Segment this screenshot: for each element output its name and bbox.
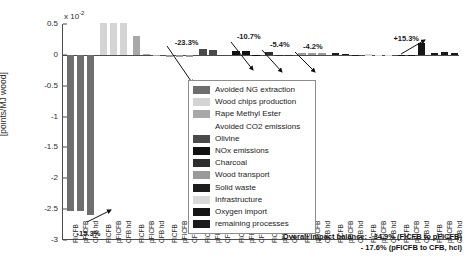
legend-swatch: [193, 123, 210, 131]
legend-swatch: [193, 196, 210, 204]
bar: [100, 23, 107, 55]
y-axis-tick: -3: [51, 236, 63, 244]
legend-item: Avoided CO2 emissions: [193, 121, 311, 133]
legend-swatch: [193, 135, 210, 143]
footer-line-1: Overall impact balance: - 34.9% (FICFB t…: [283, 231, 462, 243]
footer-line-2: - 17.6% (pFICFB to CFB, hcl): [283, 242, 462, 254]
footer-note: Overall impact balance: - 34.9% (FICFB t…: [283, 231, 462, 254]
legend-item: Wood chips production: [193, 96, 311, 108]
y-axis-tick: 0: [54, 51, 63, 59]
y-axis-tick: -2: [51, 174, 63, 182]
legend-swatch: [193, 171, 210, 179]
x-axis-tick-label: FICFB: [172, 224, 179, 243]
bar: [352, 55, 359, 56]
bar: [87, 55, 94, 215]
legend-item-label: Avoided NG extraction: [215, 86, 295, 94]
y-axis-tick-mark: [63, 24, 67, 25]
legend-item-label: Charcoal: [215, 159, 247, 167]
legend-item: Avoided NG extraction: [193, 84, 311, 96]
y-axis-tick: -1.5: [44, 143, 63, 151]
y-axis-exponent: x 10-2: [64, 10, 84, 21]
y-axis-tick: -2.5: [44, 205, 63, 213]
legend-item: Infrastructure: [193, 194, 311, 206]
y-axis-tick: -0.5: [44, 82, 63, 90]
bar: [67, 55, 74, 211]
legend-item: Solid waste: [193, 182, 311, 194]
bar: [332, 53, 339, 54]
legend-swatch: [193, 98, 210, 106]
legend-item: Charcoal: [193, 157, 311, 169]
bar: [375, 55, 382, 56]
x-axis-tick-label: FICFB: [139, 224, 146, 243]
annotation-leader-line: [61, 202, 121, 262]
legend-item-label: Solid waste: [215, 184, 256, 192]
legend-item-label: Avoided CO2 emissions: [215, 123, 300, 131]
legend-swatch: [193, 184, 210, 192]
legend-item: Olivine: [193, 133, 311, 145]
bar: [342, 54, 349, 55]
y-axis-tick: 0.5: [47, 20, 63, 28]
chart-legend: Avoided NG extractionWood chips producti…: [188, 80, 316, 234]
legend-swatch: [193, 159, 210, 167]
legend-swatch: [193, 147, 210, 155]
legend-item-label: Olivine: [215, 135, 239, 143]
bar: [110, 23, 117, 55]
legend-item: Wood transport: [193, 169, 311, 181]
x-axis-tick-label: CFB hd: [126, 220, 133, 242]
legend-item-label: Oxygen import: [215, 208, 267, 216]
legend-item-label: NOx emissions: [215, 147, 269, 155]
legend-item: Oxygen import: [193, 206, 311, 218]
x-axis-tick-label: pFICFB: [149, 220, 156, 242]
legend-item-label: Infrastructure: [215, 196, 262, 204]
legend-item: Rape Methyl Ester: [193, 108, 311, 120]
bar: [451, 53, 458, 55]
legend-swatch: [193, 220, 210, 228]
x-axis-tick-label: CFB hd: [159, 220, 166, 242]
legend-item-label: remaining processes: [215, 220, 289, 228]
legend-swatch: [193, 110, 210, 118]
y-axis-label: [points/MJ wood]: [0, 72, 8, 136]
legend-item-label: Rape Methyl Ester: [215, 110, 281, 118]
legend-swatch: [193, 86, 210, 94]
legend-item-label: Wood chips production: [215, 98, 296, 106]
annotation-leader-line: [127, 26, 187, 86]
legend-item: NOx emissions: [193, 145, 311, 157]
bar: [318, 53, 325, 55]
chart-page: x 10-2 [points/MJ wood] FICFBpFICFBCFB h…: [0, 0, 470, 268]
bar: [365, 54, 372, 55]
annotation-leader-line: [391, 34, 451, 94]
y-axis-tick: -1: [51, 113, 63, 121]
legend-swatch: [193, 208, 210, 216]
legend-item: remaining processes: [193, 218, 311, 230]
bar: [77, 55, 84, 211]
legend-item-label: Wood transport: [215, 171, 270, 179]
